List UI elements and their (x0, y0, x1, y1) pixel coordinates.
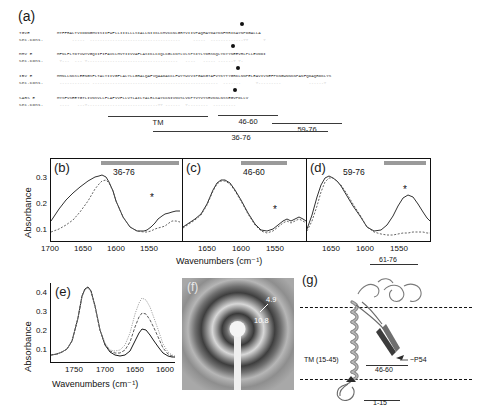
alignment-sequence-sars: MYSFVSEETGTLIVNSVLLFLAFVVFLLVTLAILTALRLC… (57, 96, 248, 100)
diffraction-spacing-10.8: 10.8 (254, 316, 269, 325)
marker-dot-ibv (236, 66, 240, 70)
x-tick-e-1650: 1650 (120, 365, 150, 374)
peptide-bar-d (384, 161, 426, 165)
marker-dot-tgve (240, 22, 244, 26)
diffraction-pattern (182, 278, 294, 390)
x-axis-label-e: Wavenumbers (cm⁻¹) (52, 379, 138, 389)
x-tick-d-1650: 1650 (316, 244, 346, 253)
alignment-sequence-ibv: MMNLLNKSLEENGSFLTALYIIVGFLALYLLGRALQAFVQ… (57, 74, 331, 78)
peptide-bar-c (241, 161, 287, 165)
plot-area-e: (e) (50, 283, 175, 363)
x-tick-c-1550: 1550 (260, 244, 290, 253)
alignment-sequence-tgve: MTFFRALTVIDDNGMVISIIFWFLLIIILLLSIALLNIIK… (57, 31, 261, 35)
x-tick-e-1600: 1600 (150, 365, 180, 374)
x-axis-label-row1: Wavenumbers (cm⁻¹) (176, 256, 262, 266)
x-tick-c-1600: 1600 (226, 244, 256, 253)
y-tick-0.3: 0.3 (25, 173, 47, 182)
region-bar-59-76 (272, 123, 342, 124)
marker-dot-sars (233, 88, 237, 92)
x-tick-b-1700: 1700 (35, 244, 65, 253)
y-tick-e-0.2: 0.2 (25, 326, 47, 335)
alignment-name-sars: SARS E (19, 96, 35, 100)
panel-c-label: (c) (186, 160, 201, 175)
alignment-cons-name-ibv: Sec.Cons. (19, 81, 43, 85)
x-tick-b-1650: 1650 (68, 244, 98, 253)
p54-label-g: ~P54 (410, 356, 427, 363)
alignment-name-mhv: MHV E (19, 52, 33, 56)
panel-b-label: (b) (54, 160, 70, 175)
peptide-bar-b (101, 161, 179, 165)
alignment-consensus-mhv: ?--- --- ?------------------------------… (57, 59, 243, 63)
alignment-name-ibv: IBV E (19, 74, 33, 78)
alignment-name-tgve: TGVE (19, 31, 30, 35)
panel-e-label: (e) (55, 284, 71, 299)
peptide-label-d: 59-76 (343, 167, 365, 177)
region-bar-tm (108, 116, 208, 117)
alignment-consensus-sars: ---- ---?----------------------------?? … (57, 103, 236, 107)
alignment-consensus-tgve: ----- ----------------------------------… (57, 38, 266, 42)
region-bar-36-76 (153, 131, 328, 132)
panel-f-label: (f) (187, 280, 198, 294)
panel-d-label: (d) (310, 160, 326, 175)
region-label-g-46-60: 46-60 (375, 366, 393, 373)
x-tick-b-1600: 1600 (101, 244, 131, 253)
alignment-cons-name-sars: Sec.Cons. (19, 103, 43, 107)
panel-a-label: (a) (18, 8, 35, 24)
y-tick-e-0.3: 0.3 (25, 307, 47, 316)
region-bar-46-60 (218, 115, 278, 116)
x-tick-b-1550: 1550 (134, 244, 164, 253)
alignment-cons-name-tgve: Sec.Cons. (19, 38, 43, 42)
diffraction-spacing-4.9: 4.9 (266, 295, 276, 304)
marker-dot-mhv (231, 44, 235, 48)
x-tick-d-1550: 1550 (384, 244, 414, 253)
peptide-label-b: 36-76 (113, 167, 135, 177)
x-tick-e-1750: 1750 (59, 365, 89, 374)
region-label-36-76: 36-76 (211, 133, 271, 142)
region-label-46-60: 46-60 (218, 117, 278, 126)
region-label-59-76: 59-76 (277, 125, 337, 134)
x-tick-d-1600: 1600 (350, 244, 380, 253)
region-bar-g-61-76 (370, 264, 418, 265)
plot-area-d: (d) 59-76 * (307, 158, 431, 242)
panel-f-diffraction: (f) 4.9 10.8 (182, 278, 294, 390)
plot-area-c: (c) 46-60 * (183, 158, 307, 242)
region-label-g-1-15: 1-15 (373, 399, 387, 405)
region-label-tm: TM (128, 118, 188, 127)
y-tick-0.1: 0.1 (25, 225, 47, 234)
region-label-g-61-76: 61-76 (379, 256, 397, 263)
tm-label-g: TM (15-45) (304, 356, 339, 363)
x-tick-c-1650: 1650 (192, 244, 222, 253)
y-tick-e-0.1: 0.1 (25, 345, 47, 354)
y-tick-0.2: 0.2 (25, 199, 47, 208)
alignment-sequence-mhv: MFNLFLTDTVWYVGQIIFIFAVCLMVTIIVVAFLASIKLC… (57, 52, 266, 56)
figure-root: (a) TGVE MTFFRALTVIDDNGMVISIIFWFLLIIILLL… (0, 0, 477, 405)
y-tick-e-0.4: 0.4 (25, 288, 47, 297)
plot-area-b: (b) 36-76 * (50, 158, 183, 242)
model-structure (296, 272, 477, 405)
peptide-label-c: 46-60 (243, 167, 265, 177)
asterisk-marker-d: * (403, 185, 407, 195)
asterisk-marker-c: * (273, 205, 277, 215)
alignment-consensus-ibv: ------------ ---------------------------… (57, 81, 326, 85)
panel-a-alignment: (a) TGVE MTFFRALTVIDDNGMVISIIFWFLLIIILLL… (0, 0, 477, 142)
alignment-cons-name-mhv: Sec.Cons. (19, 59, 43, 63)
asterisk-marker-b: * (150, 193, 154, 203)
panel-g-model: (g) (296, 272, 477, 405)
x-tick-e-1700: 1700 (90, 365, 120, 374)
